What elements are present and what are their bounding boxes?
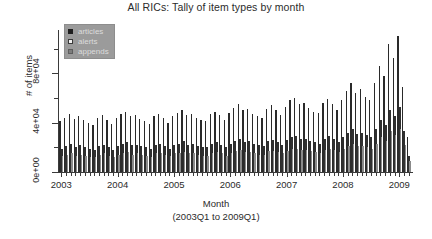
y-tick [54, 49, 58, 50]
bar-appends [67, 155, 68, 172]
bar-appends [161, 153, 162, 172]
x-tick [404, 172, 405, 176]
bar-appends [344, 149, 345, 172]
x-tick [118, 172, 119, 177]
y-tick-label: 8e+04 [0, 66, 48, 76]
x-tick [235, 172, 236, 176]
x-tick [366, 172, 367, 176]
x-tick [244, 172, 245, 176]
x-tick [136, 172, 137, 176]
bar-appends [62, 156, 63, 172]
x-tick [141, 172, 142, 176]
bar-appends [212, 153, 213, 172]
x-tick-label: 2003 [51, 179, 72, 190]
bar-appends [165, 155, 166, 172]
bar-appends [170, 156, 171, 172]
bar-appends [381, 137, 382, 172]
x-tick [113, 172, 114, 176]
bar-appends [391, 131, 392, 172]
legend-label-alerts: alerts [78, 37, 98, 46]
bar-appends [395, 135, 396, 172]
x-tick [263, 172, 264, 176]
x-tick [99, 172, 100, 176]
x-tick [319, 172, 320, 176]
bar-appends [311, 151, 312, 172]
x-tick [108, 172, 109, 176]
bar-appends [297, 149, 298, 172]
x-tick [291, 172, 292, 176]
chart-title: All RICs: Tally of item types by month [0, 1, 432, 13]
x-tick [305, 172, 306, 176]
x-tick [273, 172, 274, 176]
x-tick [221, 172, 222, 176]
bar-appends [362, 146, 363, 172]
bar-appends [137, 153, 138, 172]
bar-appends [240, 150, 241, 172]
bar-appends [203, 156, 204, 172]
legend-swatch-alerts-icon [68, 39, 73, 44]
x-tick [315, 172, 316, 176]
x-tick [376, 172, 377, 176]
x-tick [151, 172, 152, 176]
bar-appends [409, 161, 410, 172]
bar-appends [184, 152, 185, 172]
legend-item-appends: appends [68, 47, 109, 56]
x-tick [362, 172, 363, 176]
bar-appends [376, 144, 377, 172]
bar-appends [301, 150, 302, 172]
bar-appends [175, 153, 176, 172]
x-tick-label: 2009 [389, 179, 410, 190]
x-tick [348, 172, 349, 176]
bar-appends [386, 141, 387, 172]
x-tick [329, 172, 330, 176]
x-tick [268, 172, 269, 176]
bar-appends [151, 157, 152, 172]
bar-appends [250, 152, 251, 172]
x-tick-label: 2007 [276, 179, 297, 190]
bar-appends [245, 152, 246, 172]
bar-appends [278, 152, 279, 172]
x-tick [165, 172, 166, 176]
bar-appends [95, 157, 96, 172]
x-tick [66, 172, 67, 176]
x-tick [254, 172, 255, 176]
x-tick [399, 172, 400, 177]
x-tick [230, 172, 231, 177]
bar-appends [330, 149, 331, 172]
x-tick [310, 172, 311, 176]
x-tick [338, 172, 339, 176]
bar-appends [109, 156, 110, 172]
bar-appends [405, 145, 406, 172]
legend-label-appends: appends [78, 47, 109, 56]
x-tick [324, 172, 325, 176]
x-tick [343, 172, 344, 177]
x-tick [94, 172, 95, 176]
bar-appends [90, 157, 91, 172]
x-tick [85, 172, 86, 176]
y-tick [52, 73, 58, 74]
chart-figure: All RICs: Tally of item types by month #… [0, 0, 432, 239]
x-tick [390, 172, 391, 176]
legend-item-articles: articles [68, 27, 109, 36]
bar-appends [358, 146, 359, 172]
bar-appends [217, 152, 218, 172]
x-tick [90, 172, 91, 176]
y-tick [52, 172, 58, 173]
x-tick [104, 172, 105, 176]
x-tick [301, 172, 302, 176]
x-tick [385, 172, 386, 176]
x-tick [409, 172, 410, 176]
x-tick [183, 172, 184, 176]
legend-item-alerts: alerts [68, 37, 109, 46]
x-tick [197, 172, 198, 176]
bar-appends [123, 153, 124, 172]
bar-appends [114, 157, 115, 172]
x-tick [202, 172, 203, 176]
x-tick [212, 172, 213, 176]
bar-appends [132, 155, 133, 172]
x-tick [193, 172, 194, 176]
bar-appends [100, 155, 101, 172]
x-tick-label: 2004 [107, 179, 128, 190]
x-tick [277, 172, 278, 176]
legend-swatch-articles-icon [68, 29, 73, 34]
